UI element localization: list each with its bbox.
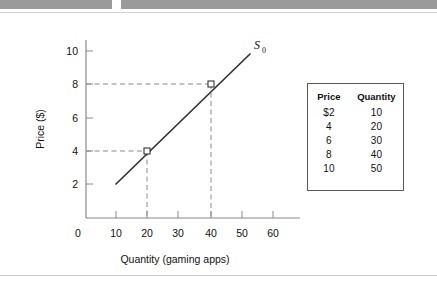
supply-curve-label-text: S xyxy=(254,38,260,52)
x-tick-label-40: 40 xyxy=(205,227,217,239)
table-cell-price: 4 xyxy=(308,119,350,133)
data-point-marker-q40-p8 xyxy=(208,81,214,87)
table-cell-quantity: 40 xyxy=(350,147,403,161)
table-cell-quantity: 50 xyxy=(350,161,403,175)
table-cell-price: $2 xyxy=(308,105,350,119)
chart-axes xyxy=(86,40,300,218)
y-tick-label-8: 8 xyxy=(72,78,78,90)
data-point-marker-q20-p4 xyxy=(144,148,150,154)
figure-page: 10 8 6 4 2 0 10 20 30 40 50 60 Quantity … xyxy=(0,0,437,289)
table-row: 4 20 xyxy=(308,119,403,133)
x-tick-label-20: 20 xyxy=(141,227,153,239)
table-header-row: Price Quantity xyxy=(308,91,403,105)
table-header-quantity: Quantity xyxy=(350,91,403,105)
x-axis-ticks xyxy=(116,211,273,218)
page-header-band xyxy=(0,0,437,9)
x-tick-label-50: 50 xyxy=(236,227,248,239)
x-tick-label-10: 10 xyxy=(110,227,122,239)
table-cell-quantity: 30 xyxy=(350,133,403,147)
supply-curve-line xyxy=(116,54,250,184)
y-tick-label-4: 4 xyxy=(72,145,78,157)
table-row: 8 40 xyxy=(308,147,403,161)
table-cell-quantity: 10 xyxy=(350,105,403,119)
supply-curve-label: S 0 xyxy=(254,38,266,55)
table-cell-price: 10 xyxy=(308,161,350,175)
table-row: 6 30 xyxy=(308,133,403,147)
table-cell-quantity: 20 xyxy=(350,119,403,133)
table-body: $2 10 4 20 6 30 8 40 xyxy=(308,105,403,175)
x-tick-label-0: 0 xyxy=(75,227,81,239)
y-axis-title: Price ($) xyxy=(34,109,46,149)
x-tick-label-30: 30 xyxy=(172,227,184,239)
footer-divider-rule xyxy=(0,275,437,276)
price-quantity-table-grid: Price Quantity $2 10 4 20 6 30 xyxy=(308,91,403,175)
x-tick-label-60: 60 xyxy=(267,227,279,239)
table-cell-price: 6 xyxy=(308,133,350,147)
price-quantity-table: Price Quantity $2 10 4 20 6 30 xyxy=(307,83,404,191)
y-axis-ticks xyxy=(86,51,93,184)
y-axis-tick-labels: 10 8 6 4 2 xyxy=(66,45,78,190)
table-row: $2 10 xyxy=(308,105,403,119)
y-tick-label-6: 6 xyxy=(72,112,78,124)
table-cell-price: 8 xyxy=(308,147,350,161)
table-header-price: Price xyxy=(308,91,350,105)
supply-curve-label-subscript: 0 xyxy=(262,46,266,55)
table-header: Price Quantity xyxy=(308,91,403,105)
x-axis-title: Quantity (gaming apps) xyxy=(120,253,229,265)
page-header-band-gap xyxy=(112,0,121,9)
x-axis-tick-labels: 0 10 20 30 40 50 60 xyxy=(75,227,279,239)
y-tick-label-2: 2 xyxy=(72,178,78,190)
table-row: 10 50 xyxy=(308,161,403,175)
y-tick-label-10: 10 xyxy=(66,45,78,57)
supply-curve-figure: 10 8 6 4 2 0 10 20 30 40 50 60 Quantity … xyxy=(0,13,437,275)
